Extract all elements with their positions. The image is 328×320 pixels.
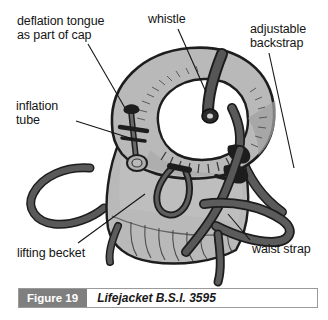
annotation-label-deflation-tongue: deflation tongue as part of cap [17,14,104,42]
annotation-label-whistle: whistle [148,12,186,26]
leader-line-deflation-tongue [88,44,125,108]
annotation-label-waist-strap: waist strap [252,242,311,256]
figure-caption-bar: Figure 19 Lifejacket B.S.I. 3595 [18,288,318,308]
figure-caption-text: Lifejacket B.S.I. 3595 [87,289,216,307]
figure-container: deflation tongue as part of cap inflatio… [0,0,328,320]
figure-number-badge: Figure 19 [19,289,87,307]
annotation-label-inflation-tube: inflation tube [16,99,58,127]
annotation-label-adjustable-backstrap: adjustable backstrap [250,22,306,50]
annotation-label-lifting-becket: lifting becket [17,246,85,260]
